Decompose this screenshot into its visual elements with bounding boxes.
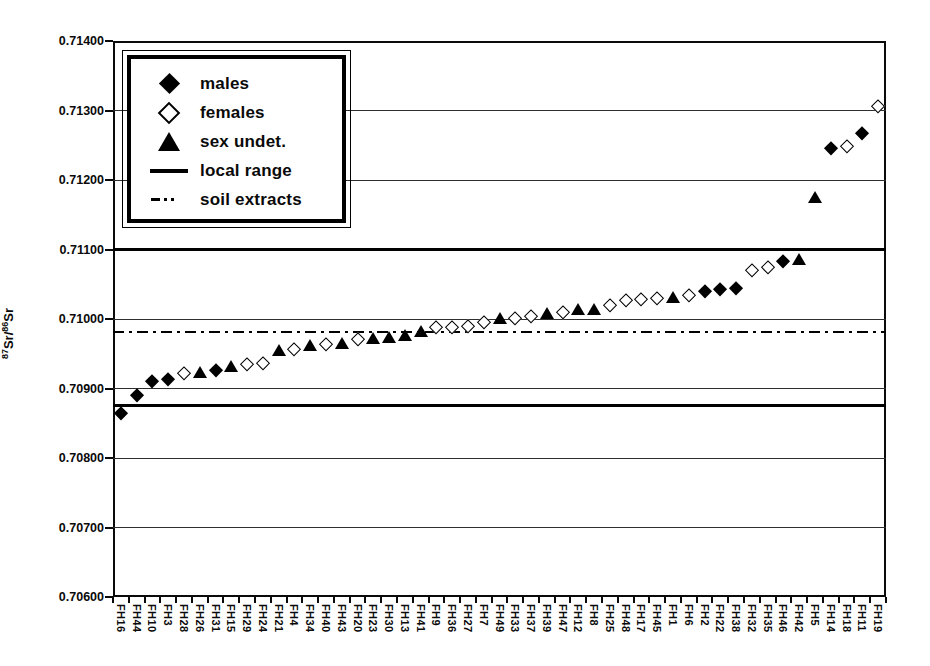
x-tick-label: FH48	[620, 604, 632, 633]
x-tick-label: FH18	[841, 604, 853, 633]
x-axis-tick	[617, 597, 619, 603]
x-tick-label: FH34	[304, 604, 316, 633]
x-axis-tick	[759, 597, 761, 603]
x-axis-tick	[885, 597, 887, 603]
data-point-sex-undet	[540, 307, 554, 319]
x-tick-label: FH32	[746, 604, 758, 633]
soil-extracts-line	[113, 331, 886, 333]
x-axis-tick	[112, 597, 114, 603]
x-tick-label: FH49	[494, 604, 506, 633]
x-axis-tick	[428, 597, 430, 603]
x-tick-label: FH25	[604, 604, 616, 633]
data-point-sex-undet	[414, 325, 428, 337]
x-tick-label: FH40	[320, 604, 332, 633]
x-axis-tick	[380, 597, 382, 603]
x-axis-tick	[743, 597, 745, 603]
x-axis-tick	[648, 597, 650, 603]
y-tick-label: 0.71400	[30, 33, 104, 49]
x-axis-tick	[159, 597, 161, 603]
x-axis-tick	[869, 597, 871, 603]
y-axis-tick	[105, 457, 113, 459]
x-tick-label: FH17	[635, 604, 647, 633]
x-axis-tick	[128, 597, 130, 603]
y-axis-title-sup-87: 87	[0, 349, 10, 359]
x-axis-tick	[396, 597, 398, 603]
solid-line-icon	[150, 169, 188, 173]
x-tick-label: FH3	[162, 604, 174, 626]
x-tick-label: FH16	[115, 604, 127, 633]
y-axis-tick	[105, 318, 113, 320]
sr-isotope-scatter-figure: 87Sr/86Sr males females sex undet. local…	[0, 0, 930, 666]
legend-item-local-range: local range	[131, 156, 342, 185]
y-tick-label: 0.71300	[30, 103, 104, 119]
x-axis-tick	[585, 597, 587, 603]
x-tick-label: FH9	[430, 604, 442, 626]
y-axis-tick	[105, 527, 113, 529]
x-axis-tick	[333, 597, 335, 603]
data-point-sex-undet	[366, 332, 380, 344]
data-point-sex-undet	[303, 339, 317, 351]
legend-item-males: males	[131, 69, 342, 98]
x-axis-tick	[443, 597, 445, 603]
data-point-sex-undet	[398, 329, 412, 341]
x-tick-label: FH26	[194, 604, 206, 633]
y-axis-title-sr2: Sr	[1, 308, 16, 322]
x-tick-label: FH11	[856, 604, 868, 632]
x-tick-label: FH46	[777, 604, 789, 633]
x-axis-tick	[175, 597, 177, 603]
x-axis-tick	[711, 597, 713, 603]
filled-triangle-icon	[158, 132, 180, 151]
x-tick-label: FH6	[683, 604, 695, 626]
x-tick-label: FH23	[367, 604, 379, 633]
x-axis-tick	[664, 597, 666, 603]
data-point-sex-undet	[666, 291, 680, 303]
x-axis-tick	[696, 597, 698, 603]
x-tick-label: FH20	[352, 604, 364, 633]
legend-label-local-range: local range	[200, 161, 292, 181]
y-axis-tick	[105, 110, 113, 112]
x-axis-tick	[286, 597, 288, 603]
data-point-sex-undet	[335, 337, 349, 349]
x-axis-tick	[727, 597, 729, 603]
x-tick-label: FH44	[131, 604, 143, 633]
x-tick-label: FH47	[557, 604, 569, 633]
legend: males females sex undet. local range soi…	[127, 55, 346, 223]
data-point-sex-undet	[571, 303, 585, 315]
y-tick-label: 0.71200	[30, 172, 104, 188]
x-axis-tick	[301, 597, 303, 603]
x-tick-label: FH8	[588, 604, 600, 626]
x-tick-label: FH38	[730, 604, 742, 633]
legend-label-females: females	[200, 103, 265, 123]
x-tick-label: FH5	[809, 604, 821, 626]
x-axis-tick	[569, 597, 571, 603]
x-tick-label: FH10	[146, 604, 158, 633]
x-axis-tick	[254, 597, 256, 603]
x-tick-label: FH28	[178, 604, 190, 633]
x-axis-tick	[853, 597, 855, 603]
data-point-sex-undet	[193, 366, 207, 378]
legend-item-females: females	[131, 98, 342, 127]
x-tick-label: FH37	[525, 604, 537, 633]
x-tick-label: FH33	[509, 604, 521, 633]
y-axis-tick	[105, 249, 113, 251]
x-tick-label: FH30	[383, 604, 395, 633]
y-axis-tick	[105, 388, 113, 390]
local-range-line	[113, 404, 886, 407]
y-tick-label: 0.70600	[30, 589, 104, 605]
data-point-sex-undet	[808, 191, 822, 203]
y-tick-label: 0.71100	[30, 242, 104, 258]
legend-label-sex-undet: sex undet.	[200, 132, 286, 152]
y-gridline	[113, 527, 886, 528]
x-axis-tick	[238, 597, 240, 603]
x-axis-tick	[806, 597, 808, 603]
data-point-sex-undet	[493, 312, 507, 324]
x-tick-label: FH2	[699, 604, 711, 626]
x-axis-tick	[317, 597, 319, 603]
local-range-line	[113, 248, 886, 251]
x-axis-tick	[270, 597, 272, 603]
x-axis-tick	[790, 597, 792, 603]
x-tick-label: FH4	[288, 604, 300, 626]
open-diamond-icon	[158, 101, 181, 124]
filled-diamond-icon	[158, 73, 179, 94]
x-axis-tick	[601, 597, 603, 603]
